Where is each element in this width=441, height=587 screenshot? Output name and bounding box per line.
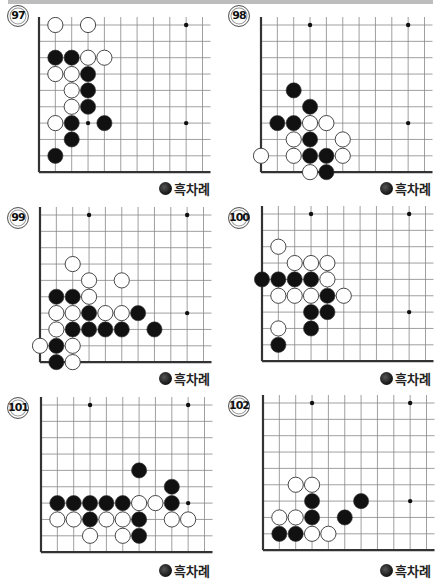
white-stone-icon: [98, 306, 113, 321]
black-stone-icon: [132, 463, 147, 478]
black-stone-icon: [82, 496, 97, 511]
black-stone-icon: [303, 321, 318, 336]
white-stone-icon: [80, 50, 95, 65]
white-stone-icon: [32, 338, 47, 353]
star-point-icon: [186, 501, 190, 505]
black-stone-icon: [270, 116, 285, 131]
star-point-icon: [185, 213, 189, 217]
white-stone-icon: [64, 83, 79, 98]
star-point-icon: [86, 121, 90, 125]
black-stone-icon: [115, 496, 130, 511]
black-stone-icon: [271, 272, 286, 287]
star-point-icon: [406, 121, 410, 125]
white-stone-icon: [65, 306, 80, 321]
black-stone-icon: [159, 372, 172, 385]
black-stone-icon: [272, 526, 287, 541]
white-stone-icon: [65, 256, 80, 271]
go-board[interactable]: [254, 206, 436, 371]
white-stone-icon: [319, 116, 334, 131]
black-stone-icon: [380, 372, 393, 385]
white-stone-icon: [164, 512, 179, 527]
black-stone-icon: [48, 148, 63, 163]
star-point-icon: [184, 23, 188, 27]
star-point-icon: [310, 401, 314, 405]
black-stone-icon: [319, 165, 334, 180]
white-stone-icon: [320, 272, 335, 287]
black-stone-icon: [304, 494, 319, 509]
white-stone-icon: [115, 512, 130, 527]
star-point-icon: [309, 212, 313, 216]
black-stone-icon: [49, 338, 64, 353]
white-stone-icon: [114, 306, 129, 321]
turn-caption-text: 흑차례: [174, 561, 210, 580]
white-stone-icon: [271, 239, 286, 254]
turn-caption: 흑차례: [380, 561, 431, 580]
star-point-icon: [407, 310, 411, 314]
white-stone-icon: [148, 496, 163, 511]
black-stone-icon: [254, 272, 269, 287]
star-point-icon: [408, 499, 412, 503]
star-point-icon: [88, 403, 92, 407]
black-stone-icon: [132, 512, 147, 527]
white-stone-icon: [271, 321, 286, 336]
white-stone-icon: [335, 132, 350, 147]
white-stone-icon: [181, 512, 196, 527]
black-stone-icon: [64, 116, 79, 131]
problem-number-badge: 100: [228, 207, 250, 229]
black-stone-icon: [164, 496, 179, 511]
problem-number-badge: 97: [7, 5, 29, 27]
white-stone-icon: [253, 148, 268, 163]
white-stone-icon: [48, 116, 63, 131]
white-stone-icon: [115, 528, 130, 543]
black-stone-icon: [64, 132, 79, 147]
black-stone-icon: [81, 322, 96, 337]
problem-101: 101 흑차례: [0, 385, 220, 580]
black-stone-icon: [82, 512, 97, 527]
white-stone-icon: [302, 165, 317, 180]
black-stone-icon: [303, 305, 318, 320]
star-point-icon: [185, 311, 189, 315]
black-stone-icon: [65, 322, 80, 337]
black-stone-icon: [304, 510, 319, 525]
white-stone-icon: [114, 273, 129, 288]
white-stone-icon: [80, 17, 95, 32]
white-stone-icon: [81, 289, 96, 304]
white-stone-icon: [336, 288, 351, 303]
white-stone-icon: [81, 273, 96, 288]
black-stone-icon: [97, 116, 112, 131]
black-stone-icon: [48, 50, 63, 65]
black-stone-icon: [337, 510, 352, 525]
black-stone-icon: [320, 305, 335, 320]
white-stone-icon: [304, 526, 319, 541]
white-stone-icon: [320, 255, 335, 270]
black-stone-icon: [66, 496, 81, 511]
black-stone-icon: [65, 289, 80, 304]
white-stone-icon: [321, 526, 336, 541]
black-stone-icon: [114, 322, 129, 337]
go-board[interactable]: [33, 397, 215, 562]
black-stone-icon: [287, 272, 302, 287]
white-stone-icon: [302, 116, 317, 131]
problem-number-badge: 99: [7, 207, 29, 229]
go-board[interactable]: [255, 395, 437, 560]
go-board[interactable]: [31, 17, 213, 182]
white-stone-icon: [287, 288, 302, 303]
white-stone-icon: [288, 510, 303, 525]
black-stone-icon: [80, 99, 95, 114]
white-stone-icon: [66, 512, 81, 527]
white-stone-icon: [49, 306, 64, 321]
black-stone-icon: [49, 355, 64, 370]
black-stone-icon: [164, 479, 179, 494]
white-stone-icon: [97, 50, 112, 65]
star-point-icon: [308, 23, 312, 27]
black-stone-icon: [80, 66, 95, 81]
white-stone-icon: [287, 255, 302, 270]
black-stone-icon: [380, 564, 393, 577]
problem-99: 99 흑차례: [0, 195, 220, 390]
go-board[interactable]: [32, 207, 214, 372]
go-board[interactable]: [253, 17, 435, 182]
white-stone-icon: [286, 148, 301, 163]
white-stone-icon: [65, 355, 80, 370]
black-stone-icon: [354, 494, 369, 509]
problem-98: 98 흑차례: [221, 0, 441, 195]
